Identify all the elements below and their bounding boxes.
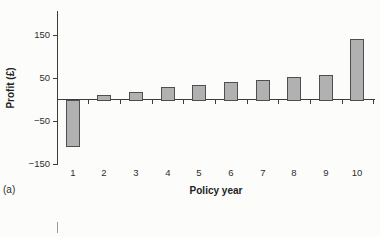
x-tick-label: 6 — [221, 167, 241, 178]
x-tick-label: 4 — [158, 167, 178, 178]
x-tick-label: 10 — [347, 167, 367, 178]
bar-chart: Profit (£) 15050−50−150 12345678910 Poli… — [0, 0, 380, 237]
y-tick-label: 50 — [10, 73, 50, 83]
y-tick-mark — [53, 121, 58, 122]
x-tick-label: 2 — [94, 167, 114, 178]
x-tick-label: 3 — [126, 167, 146, 178]
x-axis-title: Policy year — [156, 185, 276, 196]
scan-artifact-mark — [57, 222, 58, 233]
x-tick-mark — [342, 100, 343, 104]
bar-year-7 — [256, 80, 270, 101]
x-tick-mark — [310, 100, 311, 104]
x-tick-mark — [183, 100, 184, 104]
x-tick-label: 9 — [316, 167, 336, 178]
y-tick-label: −50 — [10, 116, 50, 126]
bar-year-5 — [192, 85, 206, 101]
y-tick-mark — [53, 164, 58, 165]
x-tick-mark — [373, 100, 374, 104]
bar-year-8 — [287, 77, 301, 101]
x-tick-mark — [215, 100, 216, 104]
bar-year-4 — [161, 87, 175, 101]
figure-panel-a: Profit (£) 15050−50−150 12345678910 Poli… — [0, 0, 380, 237]
x-tick-label: 7 — [253, 167, 273, 178]
panel-label: (a) — [3, 184, 15, 195]
bar-year-6 — [224, 82, 238, 101]
y-tick-label: 150 — [10, 30, 50, 40]
bar-year-2 — [97, 95, 111, 101]
x-tick-label: 1 — [63, 167, 83, 178]
x-tick-label: 8 — [284, 167, 304, 178]
x-tick-mark — [152, 100, 153, 104]
x-tick-mark — [247, 100, 248, 104]
bar-year-3 — [129, 92, 143, 101]
x-tick-mark — [278, 100, 279, 104]
y-tick-label: −150 — [10, 159, 50, 169]
x-tick-label: 5 — [189, 167, 209, 178]
bar-year-1 — [66, 100, 80, 147]
bar-year-9 — [319, 75, 333, 101]
x-tick-mark — [120, 100, 121, 104]
x-tick-mark — [88, 100, 89, 104]
y-tick-mark — [53, 78, 58, 79]
bar-year-10 — [350, 39, 364, 101]
y-tick-mark — [53, 35, 58, 36]
